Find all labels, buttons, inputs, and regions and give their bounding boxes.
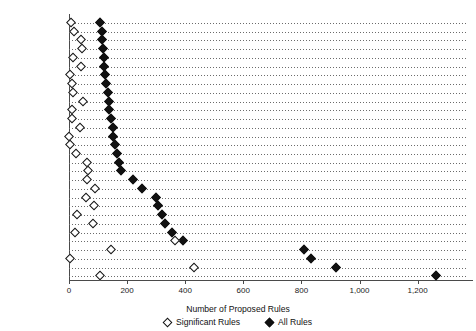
row-gridline (69, 224, 467, 225)
legend-label-significant-rules: Significant Rules (176, 317, 240, 327)
chart-row: FWS (DOI) (69, 246, 467, 255)
chart-row: NHTSA (DOT) (69, 211, 467, 220)
all-rules-marker (103, 87, 113, 97)
chart-row: DEPT (DOD) (69, 63, 467, 72)
chart-row: PHMSA (DOT) (69, 150, 467, 159)
legend-label-all-rules: All Rules (278, 317, 312, 327)
chart-row: EPA (69, 264, 467, 273)
chart-row: VA (69, 220, 467, 229)
row-gridline (69, 250, 467, 251)
row-gridline (69, 276, 467, 277)
all-rules-marker (102, 79, 112, 89)
significant-rules-marker (82, 175, 92, 185)
chart-row: HOUSING (HUD) (69, 98, 467, 107)
significant-rules-marker (68, 52, 78, 62)
significant-rules-marker (65, 140, 75, 150)
row-gridline (69, 40, 467, 41)
dot-plot-chart: CG (DOT)PTO (DOC)FARM (USDA)FNS (USDA)BO… (0, 0, 476, 331)
chart-row: NOAA (DOC) (69, 272, 467, 281)
row-gridline (69, 259, 467, 260)
significant-rules-marker (66, 18, 76, 28)
x-tick (127, 280, 128, 284)
all-rules-marker (306, 253, 316, 263)
chart-row: SBA (69, 159, 467, 168)
significant-rules-marker (88, 218, 98, 228)
all-rules-marker (160, 218, 170, 228)
chart-row: FAA (DOT) (69, 194, 467, 203)
legend-item-significant-rules: Significant Rules (164, 317, 240, 327)
legend-item-all-rules: All Rules (266, 317, 312, 327)
row-gridline (69, 110, 467, 111)
chart-row: FDA (HHS) (69, 185, 467, 194)
significant-rules-marker (83, 166, 93, 176)
row-gridline (69, 241, 467, 242)
all-rules-marker (95, 18, 105, 28)
row-gridline (69, 102, 467, 103)
significant-rules-marker (70, 227, 80, 237)
significant-rules-marker (68, 87, 78, 97)
x-tick-label: 400 (179, 286, 192, 295)
row-gridline (69, 67, 467, 68)
chart-row: CMS (HHS) (69, 237, 467, 246)
all-rules-marker (106, 114, 116, 124)
x-tick-label: 1,000 (349, 286, 369, 295)
filled-diamond-icon (265, 317, 275, 327)
row-gridline (69, 206, 467, 207)
chart-row: BOEM (DOI) (69, 54, 467, 63)
row-gridline (69, 171, 467, 172)
all-rules-marker (432, 271, 442, 281)
chart-row: PTO (DOC) (69, 28, 467, 37)
all-rules-marker (299, 245, 309, 255)
chart-row: IRS (TREAS) (69, 255, 467, 264)
all-rules-marker (112, 149, 122, 159)
significant-rules-marker (78, 96, 88, 106)
significant-rules-marker (71, 149, 81, 159)
x-axis-title: Number of Proposed Rules (0, 304, 476, 314)
row-gridline (69, 93, 467, 94)
significant-rules-marker (76, 61, 86, 71)
row-gridline (69, 163, 467, 164)
significant-rules-marker (77, 44, 87, 54)
chart-row: COMP (TREAS) (69, 115, 467, 124)
significant-rules-marker (106, 245, 116, 255)
all-rules-marker (179, 236, 189, 246)
row-gridline (69, 84, 467, 85)
significant-rules-marker (89, 201, 99, 211)
chart-row: APHIS (USDA) (69, 176, 467, 185)
all-rules-marker (129, 175, 139, 185)
row-gridline (69, 75, 467, 76)
significant-rules-marker (72, 210, 82, 220)
chart-row: FARM (USDA) (69, 36, 467, 45)
significant-rules-marker (95, 271, 105, 281)
chart-row: OPM (69, 202, 467, 211)
row-gridline (69, 233, 467, 234)
plot-area: CG (DOT)PTO (DOC)FARM (USDA)FNS (USDA)BO… (69, 16, 467, 278)
row-gridline (69, 128, 467, 129)
chart-row: FHA (HUD) (69, 106, 467, 115)
x-tick-label: 0 (67, 286, 71, 295)
x-tick-label: 800 (295, 286, 308, 295)
row-gridline (69, 137, 467, 138)
all-rules-marker (116, 166, 126, 176)
chart-row: FNS (USDA) (69, 45, 467, 54)
significant-rules-marker (69, 26, 79, 36)
chart-row: GSA (69, 89, 467, 98)
row-gridline (69, 58, 467, 59)
open-diamond-icon (163, 317, 173, 327)
all-rules-marker (137, 183, 147, 193)
significant-rules-marker (189, 262, 199, 272)
chart-row: SSA (69, 167, 467, 176)
chart-row: DARC (DOD) (69, 229, 467, 238)
significant-rules-marker (65, 70, 75, 80)
significant-rules-marker (81, 192, 91, 202)
x-tick (360, 280, 361, 284)
x-tick-label: 600 (237, 286, 250, 295)
row-gridline (69, 215, 467, 216)
significant-rules-marker (170, 236, 180, 246)
all-rules-marker (331, 262, 341, 272)
significant-rules-marker (90, 183, 100, 193)
row-gridline (69, 32, 467, 33)
chart-row: NPS (DOI) (69, 80, 467, 89)
chart-legend: Significant Rules All Rules (0, 317, 476, 327)
row-gridline (69, 154, 467, 155)
